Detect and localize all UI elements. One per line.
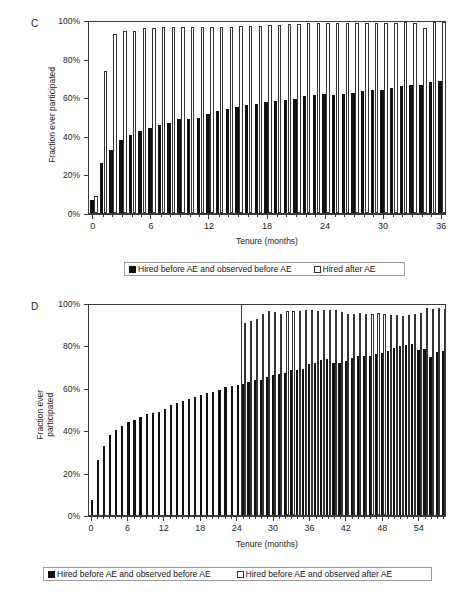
panel-d-legend: Hired before AE and observed before AE H… <box>43 567 432 581</box>
bar <box>218 390 220 515</box>
bar <box>239 26 242 213</box>
panel-c-y-tick-label: 40% <box>63 132 80 142</box>
panel-c-legend: Hired before AE and observed before AE H… <box>124 262 405 276</box>
bar <box>152 413 154 515</box>
bar <box>342 94 345 213</box>
bar <box>206 393 208 515</box>
panel-c-x-tick-label: 0 <box>90 221 95 231</box>
bar <box>347 314 349 515</box>
bar <box>138 131 141 213</box>
bar <box>200 395 202 515</box>
bar <box>255 104 258 213</box>
panel-d-legend-item-0: Hired before AE and observed before AE <box>48 569 211 579</box>
bar <box>231 386 233 515</box>
panel-d-y-tick-label: 0% <box>68 511 80 521</box>
bar <box>332 95 335 213</box>
bar <box>230 27 233 213</box>
bar <box>365 23 368 213</box>
panel-d-y-tick-label: 20% <box>63 469 80 479</box>
panel-c-plot-frame <box>88 21 446 214</box>
panel-c-bars <box>89 22 445 213</box>
panel-d-x-tick-label: 24 <box>232 523 242 533</box>
bar <box>249 26 252 213</box>
bar <box>396 315 398 515</box>
panel-c-x-tick-label: 36 <box>436 221 446 231</box>
bar <box>245 105 248 213</box>
panel-d-x-tick-label: 48 <box>377 523 387 533</box>
bar <box>139 417 141 515</box>
bar <box>129 135 132 213</box>
bar <box>326 23 329 213</box>
bar <box>438 81 441 213</box>
bar <box>284 100 287 213</box>
bar <box>280 314 282 515</box>
bar <box>274 101 277 213</box>
bar <box>210 27 213 213</box>
bar <box>259 26 262 213</box>
bar <box>133 420 135 515</box>
bar <box>341 312 343 515</box>
panel-c-x-tick-label: 12 <box>204 221 214 231</box>
bar <box>164 409 166 515</box>
bar <box>109 435 111 515</box>
bar <box>317 23 320 213</box>
hollow-square-icon <box>237 571 244 578</box>
bar <box>143 28 146 213</box>
bar <box>235 107 238 213</box>
bar <box>414 314 416 515</box>
bar <box>361 91 364 213</box>
bar <box>311 310 313 515</box>
bar <box>94 196 97 213</box>
bar <box>146 414 148 515</box>
bar <box>438 308 440 515</box>
bar <box>408 315 410 515</box>
bar <box>103 446 105 515</box>
bar <box>268 25 271 213</box>
bar <box>377 313 379 515</box>
panel-d-y-tick-label: 100% <box>58 299 80 309</box>
bar <box>420 313 422 515</box>
bar <box>384 23 387 213</box>
bar <box>172 27 175 213</box>
panel-c-legend-label-1: Hired after AE <box>323 264 376 274</box>
bar <box>250 321 252 515</box>
bar <box>90 200 93 214</box>
bar <box>359 313 361 515</box>
figure-container: C Fraction ever participated 0%20%40%60%… <box>0 0 470 599</box>
bar <box>383 314 385 515</box>
bar <box>390 315 392 515</box>
panel-c-x-tick-label: 18 <box>262 221 272 231</box>
bar <box>216 111 219 213</box>
bar <box>346 23 349 213</box>
bar <box>152 28 155 213</box>
panel-d-y-tick-label: 60% <box>63 384 80 394</box>
bar <box>264 102 267 213</box>
bar <box>201 27 204 213</box>
bar <box>197 118 200 213</box>
bar <box>433 22 436 213</box>
panel-d: D Fraction everparticipated 0%20%40%60%8… <box>0 292 470 599</box>
hollow-square-icon <box>314 266 321 273</box>
bar <box>100 163 103 213</box>
bar <box>400 86 403 213</box>
panel-d-x-tick-label: 54 <box>414 523 424 533</box>
panel-c-letter: C <box>31 18 38 29</box>
bar <box>375 23 378 213</box>
panel-d-x-tick-label: 0 <box>89 523 94 533</box>
bar <box>419 85 422 213</box>
panel-d-plot <box>88 304 446 516</box>
bar <box>148 128 151 214</box>
bar <box>297 24 300 213</box>
bar <box>268 311 270 515</box>
bar <box>220 27 223 213</box>
panel-d-x-tick-label: 18 <box>195 523 205 533</box>
panel-c-x-tick-label: 24 <box>320 221 330 231</box>
panel-d-y-tick-label: 80% <box>63 341 80 351</box>
bar <box>335 310 337 515</box>
panel-c-y-axis-title: Fraction ever participated <box>48 40 58 190</box>
panel-d-legend-label-0: Hired before AE and observed before AE <box>57 569 211 579</box>
bar <box>212 392 214 515</box>
bar <box>293 99 296 213</box>
panel-c-y-tick-label: 80% <box>63 55 80 65</box>
bar <box>262 314 264 515</box>
